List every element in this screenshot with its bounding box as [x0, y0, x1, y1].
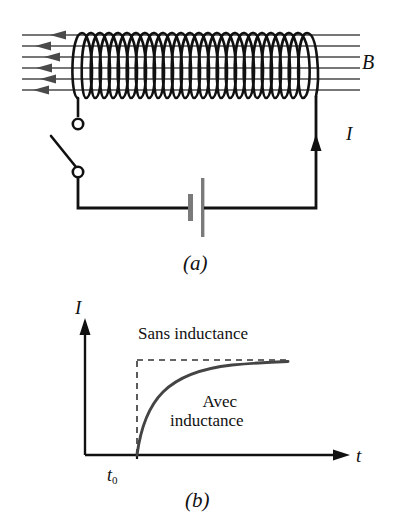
panel-b-label: (b) — [185, 489, 210, 511]
chart-y-axis-label: I — [75, 298, 81, 318]
avec-line-1: Avec — [203, 392, 238, 411]
battery-plate-long — [201, 178, 204, 237]
field-arrow-4 — [36, 64, 52, 73]
field-arrow-2 — [35, 42, 51, 51]
field-arrow-5 — [40, 75, 56, 84]
coil-turn-25 — [298, 33, 318, 98]
current-label-I: I — [346, 124, 352, 144]
field-arrow-3 — [44, 53, 60, 62]
field-arrow-1 — [50, 31, 66, 40]
figure-root: B I (a) I t t0 Sans inductance Avec indu… — [0, 0, 397, 531]
battery-symbol — [188, 178, 204, 237]
annotation-sans-inductance: Sans inductance — [138, 325, 248, 343]
t0-subscript: 0 — [112, 474, 118, 486]
solenoid-coil — [72, 33, 317, 98]
avec-line-2: inductance — [170, 412, 244, 430]
coil-turn-1 — [72, 33, 92, 98]
annotation-avec-inductance: Avec inductance — [196, 393, 244, 430]
chart-x-axis-arrowhead — [333, 450, 350, 461]
chart-y-axis-arrowhead — [80, 318, 91, 335]
panel-a-label: (a) — [183, 252, 208, 274]
chart-x-axis-label: t — [356, 446, 361, 466]
chart-tick-label-t0: t0 — [107, 466, 118, 487]
wire-battery-to-coil — [204, 96, 316, 208]
field-arrowheads — [33, 31, 66, 95]
wire-switch-to-battery — [78, 177, 190, 208]
switch-terminal-upper — [73, 119, 83, 129]
current-arrow — [311, 134, 322, 151]
switch-terminal-lower — [73, 167, 83, 177]
panel-a-circuit — [22, 31, 360, 238]
battery-plate-short — [188, 194, 193, 221]
switch-lever — [51, 136, 76, 167]
field-arrow-6 — [33, 86, 49, 95]
field-label-B: B — [362, 52, 374, 73]
